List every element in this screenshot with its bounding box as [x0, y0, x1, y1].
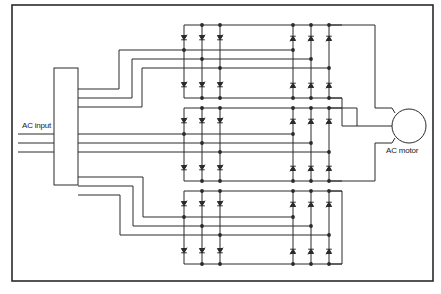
thyristor-icon [326, 202, 332, 207]
junction-dot [200, 179, 204, 183]
thyristor-icon [326, 119, 332, 124]
cycloconverter-diagram [0, 0, 441, 294]
thyristor-icon [308, 119, 314, 124]
junction-dot [200, 224, 204, 228]
ac-input-lines [18, 134, 54, 152]
thyristor-icon [326, 36, 332, 41]
thyristor-icon [199, 248, 205, 253]
junction-dot [291, 96, 295, 100]
thyristor-icon [326, 249, 332, 254]
thyristor-icon [217, 118, 223, 123]
thyristor-icon [308, 36, 314, 41]
junction-dot [200, 189, 204, 193]
ac-input-label: AC input [22, 121, 51, 130]
junction-dot [309, 96, 313, 100]
junction-dot [291, 23, 295, 27]
thyristor-icon [181, 165, 187, 170]
thyristor-icon [181, 201, 187, 206]
junction-dot [309, 189, 313, 193]
thyristor-icon [308, 83, 314, 88]
junction-dot [182, 215, 186, 219]
thyristor-icon [217, 201, 223, 206]
thyristor-icon [326, 166, 332, 171]
thyristor-icon [199, 82, 205, 87]
junction-dot [327, 66, 331, 70]
thyristor-icon [290, 249, 296, 254]
junction-dot [218, 150, 222, 154]
junction-dot [200, 262, 204, 266]
thyristor-icon [199, 118, 205, 123]
junction-dot [291, 179, 295, 183]
thyristor-icon [181, 35, 187, 40]
thyristor-icon [217, 165, 223, 170]
junction-dot [309, 106, 313, 110]
thyristor-icon [308, 249, 314, 254]
thyristor-icon [199, 165, 205, 170]
junction-dot [309, 179, 313, 183]
motor-wiring [329, 25, 395, 264]
thyristor-icon [326, 83, 332, 88]
junction-dot [291, 132, 295, 136]
thyristor-icon [308, 166, 314, 171]
junction-dot [182, 132, 186, 136]
junction-dot [218, 262, 222, 266]
junction-dot [218, 233, 222, 237]
converter-group-1 [181, 23, 342, 100]
junction-dot [309, 224, 313, 228]
thyristor-icon [290, 83, 296, 88]
transformer-block [54, 68, 78, 185]
thyristor-icon [308, 202, 314, 207]
thyristor-icon [199, 201, 205, 206]
thyristor-icon [181, 248, 187, 253]
junction-dot [291, 215, 295, 219]
junction-dot [182, 48, 186, 52]
junction-dot [200, 141, 204, 145]
junction-dot [309, 57, 313, 61]
junction-dot [200, 23, 204, 27]
junction-dot [200, 96, 204, 100]
junction-dot [218, 106, 222, 110]
junction-dot [327, 150, 331, 154]
thyristor-icon [290, 166, 296, 171]
junction-dot [200, 57, 204, 61]
thyristor-icon [217, 82, 223, 87]
thyristor-icon [181, 82, 187, 87]
junction-dot [291, 262, 295, 266]
thyristor-icon [290, 119, 296, 124]
junction-dot [200, 106, 204, 110]
junction-dot [309, 141, 313, 145]
junction-dot [291, 106, 295, 110]
ac-motor-icon [392, 109, 426, 143]
thyristor-icon [290, 202, 296, 207]
junction-dot [309, 262, 313, 266]
converter-group-3 [181, 189, 342, 266]
converter-group-2 [181, 106, 342, 183]
thyristor-icon [290, 36, 296, 41]
junction-dot [218, 66, 222, 70]
ac-motor-label: AC motor [386, 146, 418, 155]
thyristor-icon [181, 118, 187, 123]
thyristor-icon [199, 35, 205, 40]
junction-dot [291, 189, 295, 193]
junction-dot [327, 233, 331, 237]
junction-dot [309, 23, 313, 27]
junction-dot [218, 96, 222, 100]
junction-dot [218, 179, 222, 183]
junction-dot [218, 23, 222, 27]
junction-dot [218, 189, 222, 193]
thyristor-icon [217, 35, 223, 40]
junction-dot [291, 48, 295, 52]
thyristor-icon [217, 248, 223, 253]
